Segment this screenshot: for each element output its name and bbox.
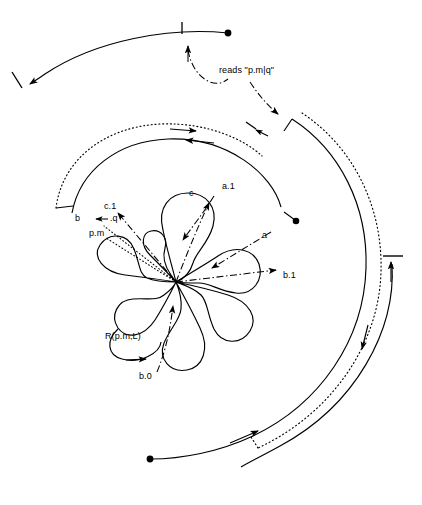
label-b: b	[75, 214, 80, 223]
region-loop-arrowhead	[126, 359, 146, 360]
petal-east	[176, 282, 253, 341]
edge-q-dotted	[104, 226, 176, 282]
dot-bottom-endpoint	[147, 456, 154, 463]
reads-connector-right	[250, 82, 278, 114]
label-c: c	[189, 189, 194, 198]
outermost-solid-arc	[241, 264, 392, 467]
outer-dotted-arc-cap	[251, 437, 258, 448]
radial-edge-group	[104, 196, 276, 372]
label-pm: p.m	[89, 229, 104, 238]
label-b1: b.1	[283, 271, 296, 280]
label-a1: a.1	[222, 182, 235, 191]
petal-south	[115, 282, 176, 335]
petal-north	[162, 193, 215, 282]
outer-solid-arc	[151, 119, 366, 459]
inner-dotted-arc-arrowhead	[170, 129, 196, 131]
dot-inner-endpoint	[293, 218, 300, 225]
arc-group	[12, 22, 403, 467]
edge-a1-dashdot	[176, 203, 209, 282]
label-a: a	[262, 231, 267, 240]
inner-solid-arc-arrowhead	[186, 140, 214, 143]
label-q: .q	[110, 214, 118, 223]
tick-mid-right-arrow	[256, 130, 268, 136]
petal-northwest	[143, 231, 176, 282]
label-b0: b.0	[139, 372, 152, 381]
inner-solid-arc-tail	[284, 212, 295, 220]
label-region: R(p.m,L)	[105, 332, 141, 341]
label-c1: c.1	[104, 202, 116, 211]
figure-canvas: c.1 a.1 c a b .q p.m b.1 b.0 R(p.m,L) re…	[0, 0, 422, 505]
inner-dotted-arc-cap	[56, 206, 73, 208]
inner-dotted-arc	[56, 124, 262, 208]
outer-dotted-arc-arrowhead	[362, 325, 368, 349]
outer-dotted-arc	[258, 113, 381, 448]
label-reads-annotation: reads "p.m|q"	[219, 66, 274, 75]
outer-solid-arc-cap	[284, 119, 292, 131]
diagram-svg	[0, 0, 422, 505]
edge-b1-dashdot	[176, 270, 276, 282]
top-solid-arc	[30, 32, 228, 84]
tick-mid-right	[246, 122, 256, 129]
tick-top-left	[12, 72, 22, 88]
dot-top-endpoint	[225, 30, 232, 37]
